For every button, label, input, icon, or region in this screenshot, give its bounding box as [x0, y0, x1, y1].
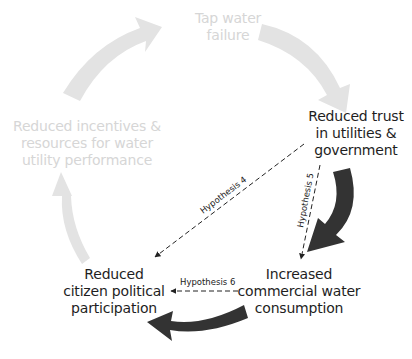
cycle-arrow-incentives-to-failure	[63, 17, 162, 101]
node-reduced-citizen-participation: Reduced citizen political participation	[58, 266, 170, 317]
node-line: Reduced incentives &	[12, 118, 162, 135]
hypothesis-4-label: Hypothesis 4	[198, 174, 248, 215]
hypothesis-6-label: Hypothesis 6	[180, 277, 235, 287]
node-reduced-trust: Reduced trust in utilities & government	[300, 108, 412, 159]
node-line: Reduced trust	[300, 108, 412, 125]
node-line: failure	[182, 27, 274, 44]
causal-cycle-diagram: Hypothesis 4 Hypothesis 5 Hypothesis 6 T…	[0, 0, 412, 359]
node-tap-water-failure: Tap water failure	[182, 10, 274, 44]
node-line: in utilities &	[300, 125, 412, 142]
node-line: citizen political	[58, 283, 170, 300]
hypothesis-4-link: Hypothesis 4	[155, 144, 304, 257]
node-line: utility performance	[12, 152, 162, 169]
node-line: government	[300, 142, 412, 159]
node-line: resources for water	[12, 135, 162, 152]
node-line: Increased	[236, 266, 362, 283]
node-line: Tap water	[182, 10, 274, 27]
node-line: Reduced	[58, 266, 170, 283]
node-line: commercial water	[236, 283, 362, 300]
node-line: participation	[58, 300, 170, 317]
hypothesis-6-link: Hypothesis 6	[171, 277, 238, 291]
node-increased-commercial-water: Increased commercial water consumption	[236, 266, 362, 317]
node-line: consumption	[236, 300, 362, 317]
cycle-arrow-participation-to-incentives	[52, 172, 90, 264]
node-reduced-incentives: Reduced incentives & resources for water…	[12, 118, 162, 169]
